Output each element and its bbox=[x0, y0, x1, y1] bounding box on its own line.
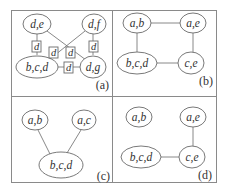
node-label: a,b bbox=[28, 114, 43, 127]
svg-text:d: d bbox=[91, 41, 97, 52]
clique-node-de: d,e bbox=[23, 14, 51, 34]
figure-canvas: d,e d,f b,c,d d,g d d d d bbox=[0, 0, 225, 191]
clique-node-ae: a,e bbox=[180, 107, 206, 127]
panel-label-d: (d) bbox=[198, 168, 212, 182]
separator-box: d bbox=[64, 62, 73, 73]
clique-node-bcd: b,c,d bbox=[121, 146, 161, 168]
clique-node-ae: a,e bbox=[180, 13, 206, 33]
node-label: b,c,d bbox=[50, 159, 73, 172]
panel-b: a,b a,e b,c,d c,e (b) bbox=[117, 13, 213, 88]
node-label: c,e bbox=[185, 151, 198, 164]
edge-ab-bcd bbox=[38, 130, 50, 154]
svg-text:d: d bbox=[68, 47, 74, 58]
panel-label-c: (c) bbox=[97, 169, 110, 183]
svg-text:d: d bbox=[51, 47, 57, 58]
clique-node-ab: a,b bbox=[126, 107, 152, 127]
clique-node-ab: a,b bbox=[22, 110, 48, 130]
panel-a: d,e d,f b,c,d d,g d d d d bbox=[16, 14, 109, 92]
clique-node-ce: c,e bbox=[179, 146, 205, 168]
node-label: d,f bbox=[88, 18, 102, 31]
clique-node-bcd: b,c,d bbox=[16, 56, 58, 78]
clique-node-bcd: b,c,d bbox=[117, 52, 157, 74]
clique-node-bcd: b,c,d bbox=[39, 152, 83, 178]
panel-d: a,b a,e b,c,d c,e (d) bbox=[121, 107, 212, 182]
clique-node-ce: c,e bbox=[178, 52, 204, 74]
node-label: a,b bbox=[130, 17, 145, 30]
node-label: d,g bbox=[86, 61, 101, 74]
panel-c: a,b a,c b,c,d (c) bbox=[22, 110, 110, 183]
node-label: a,e bbox=[186, 17, 200, 30]
panel-label-b: (b) bbox=[199, 74, 213, 88]
separator-box: d bbox=[32, 41, 41, 52]
clique-node-df: d,f bbox=[82, 14, 106, 34]
node-label: d,e bbox=[30, 18, 44, 31]
separator-box: d bbox=[49, 47, 58, 58]
svg-text:d: d bbox=[34, 41, 40, 52]
panel-label-a: (a) bbox=[96, 78, 109, 92]
node-label: b,c,d bbox=[130, 151, 153, 164]
clique-node-dg: d,g bbox=[80, 56, 106, 78]
clique-node-ab: a,b bbox=[123, 13, 151, 33]
edge-ac-bcd bbox=[67, 130, 81, 153]
separator-box: d bbox=[66, 47, 75, 58]
node-label: b,c,d bbox=[26, 61, 49, 74]
separator-box: d bbox=[89, 41, 98, 52]
node-label: b,c,d bbox=[126, 57, 149, 70]
node-label: c,e bbox=[184, 57, 197, 70]
clique-node-ac: a,c bbox=[72, 110, 96, 130]
node-label: a,e bbox=[186, 111, 200, 124]
node-label: a,b bbox=[132, 111, 147, 124]
node-label: a,c bbox=[77, 114, 91, 127]
svg-text:d: d bbox=[66, 62, 72, 73]
